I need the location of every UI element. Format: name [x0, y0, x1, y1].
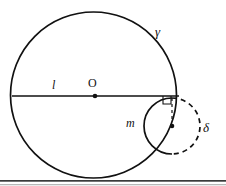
label-gamma: γ [155, 25, 160, 38]
label-arc-m: m [126, 117, 135, 129]
center-dot-O [93, 94, 98, 99]
center-dot-delta [170, 124, 175, 129]
figure-canvas [0, 0, 226, 186]
page-rule-light [0, 184, 226, 185]
label-center-O: O [88, 77, 97, 89]
arc-m-solid [144, 98, 172, 154]
geometry-figure: γ δ l O m [0, 0, 226, 186]
page-rule-dark [0, 180, 226, 182]
label-line-l: l [52, 79, 55, 91]
label-delta: δ [203, 121, 209, 134]
right-angle-mark [163, 96, 171, 104]
